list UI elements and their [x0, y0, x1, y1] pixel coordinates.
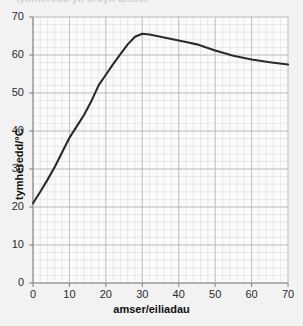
y-axis-label: tymheredd/°C	[13, 128, 25, 200]
chart-figure: tymheredd yn erbyn amser 010203040506070…	[0, 0, 303, 326]
y-tick-label: 60	[2, 48, 24, 60]
chart-plot-area	[0, 0, 303, 326]
y-tick-label: 50	[2, 86, 24, 98]
x-tick-label: 50	[204, 288, 226, 300]
x-tick-label: 20	[95, 288, 117, 300]
x-tick-label: 30	[131, 288, 153, 300]
x-tick-label: 70	[277, 288, 299, 300]
x-axis-label: amser/eiliadau	[0, 303, 303, 315]
y-tick-label: 10	[2, 238, 24, 250]
y-tick-label: 70	[2, 10, 24, 22]
y-tick-label: 20	[2, 200, 24, 212]
plot-background	[33, 17, 288, 283]
y-tick-label: 0	[2, 276, 24, 288]
x-tick-label: 10	[58, 288, 80, 300]
x-tick-label: 0	[22, 288, 44, 300]
x-tick-label: 40	[168, 288, 190, 300]
x-tick-label: 60	[241, 288, 263, 300]
